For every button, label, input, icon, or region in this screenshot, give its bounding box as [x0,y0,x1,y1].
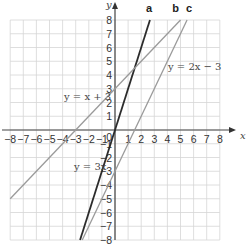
x-tick-label: −8 [4,133,16,145]
series-line-b [10,20,180,199]
x-tick-label: 2 [138,133,144,145]
x-axis-label: x [240,130,246,141]
x-tick-label: 8 [217,133,223,145]
x-axis-arrow-icon [229,127,236,133]
y-axis-label: y [105,0,112,10]
series-letter-b: b [172,2,179,14]
y-tick-label: −6 [100,207,112,219]
equation-label-b: y = x + 3 [63,91,111,102]
x-tick-label: 5 [178,133,184,145]
y-tick-label: 5 [106,55,112,67]
y-tick-label: 4 [106,69,112,81]
x-tick-label: 3 [151,133,157,145]
y-tick-label: −7 [100,220,112,232]
y-tick-label: 1 [106,110,112,122]
series-letter-a: a [146,2,153,14]
y-tick-label: −8 [100,234,112,246]
x-tick-label: 4 [164,133,170,145]
y-axis-arrow-icon [112,2,118,9]
x-tick-label: −5 [44,133,56,145]
x-tick-label: 6 [191,133,197,145]
x-tick-label: 7 [204,133,210,145]
x-tick-label: −7 [17,133,29,145]
y-tick-label: 8 [106,14,112,26]
equation-label-c: y = 2x − 3 [167,61,222,72]
y-tick-label: 6 [106,42,112,54]
equation-label-a: y = 3x [73,161,107,172]
series-letter-c: c [186,2,192,14]
x-tick-label: −6 [30,133,42,145]
y-tick-label: 7 [106,28,112,40]
x-tick-label: −2 [83,133,95,145]
line-chart: xy −8−7−6−5−4−3−2−112345678−8−7−6−5−4−3−… [0,0,246,252]
series-labels: abcy = 3xy = x + 3y = 2x − 3 [63,2,222,172]
axes: xy [2,0,246,240]
